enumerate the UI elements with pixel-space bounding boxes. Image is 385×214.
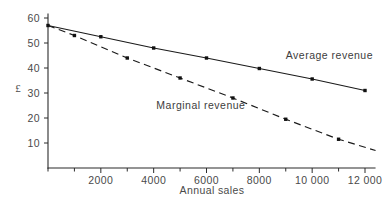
data-point <box>363 89 366 92</box>
y-axis-label: £ <box>15 82 21 94</box>
data-point <box>205 56 208 59</box>
x-tick-label: 8000 <box>247 174 272 186</box>
y-axis-tick-labels: 102030405060 <box>28 12 40 149</box>
data-point <box>178 76 181 79</box>
y-tick-label: 30 <box>28 87 40 99</box>
x-tick-label: 4000 <box>141 174 166 186</box>
data-point <box>310 77 313 80</box>
axes-group <box>48 14 375 168</box>
x-tick-label: 10 000 <box>295 174 330 186</box>
x-axis-ticks <box>48 168 365 173</box>
x-tick-label: 12 000 <box>348 174 383 186</box>
revenue-chart: 102030405060 200040006000800010 00012 00… <box>0 0 385 214</box>
data-point <box>46 24 49 27</box>
data-point <box>258 67 261 70</box>
data-point-markers <box>46 24 366 141</box>
y-tick-label: 60 <box>28 12 40 24</box>
x-axis-title: Annual sales <box>180 184 245 196</box>
data-point <box>126 56 129 59</box>
data-point <box>73 34 76 37</box>
x-tick-label: 2000 <box>88 174 113 186</box>
series-label-0: Average revenue <box>286 49 373 61</box>
data-point <box>152 46 155 49</box>
data-point <box>337 138 340 141</box>
y-tick-label: 20 <box>28 112 40 124</box>
series-annotations: Average revenueMarginal revenue <box>156 49 373 111</box>
chart-canvas: 102030405060 200040006000800010 00012 00… <box>0 0 385 214</box>
y-tick-label: 50 <box>28 37 40 49</box>
series-group <box>48 26 376 151</box>
series-label-1: Marginal revenue <box>156 99 245 111</box>
data-point <box>284 118 287 121</box>
data-point <box>99 35 102 38</box>
series-line-1 <box>48 26 376 151</box>
y-axis-ticks <box>44 18 48 143</box>
y-tick-label: 10 <box>28 137 40 149</box>
y-tick-label: 40 <box>28 62 40 74</box>
